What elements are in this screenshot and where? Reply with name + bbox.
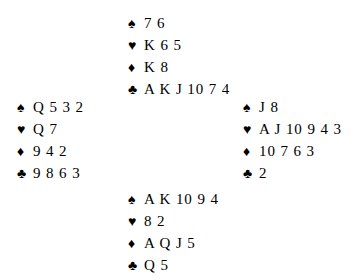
- south-hand: ♠A K 10 9 4 ♥8 2 ♦A Q J 5 ♣Q 5: [128, 188, 219, 276]
- spade-icon: ♠: [128, 13, 143, 35]
- east-clubs-cards: 2: [258, 162, 267, 184]
- heart-icon: ♥: [243, 119, 258, 141]
- spade-icon: ♠: [17, 97, 32, 119]
- heart-icon: ♥: [17, 119, 32, 141]
- heart-icon: ♥: [128, 35, 143, 57]
- north-diamonds-row: ♦K 8: [128, 56, 230, 78]
- spade-icon: ♠: [243, 97, 258, 119]
- east-spades-row: ♠J 8: [243, 96, 342, 118]
- north-clubs-cards: A K J 10 7 4: [143, 78, 230, 100]
- east-hand: ♠J 8 ♥A J 10 9 4 3 ♦10 7 6 3 ♣2: [243, 96, 342, 184]
- west-spades-cards: Q 5 3 2: [32, 96, 84, 118]
- north-hearts-row: ♥K 6 5: [128, 34, 230, 56]
- club-icon: ♣: [243, 163, 258, 185]
- west-clubs-cards: 9 8 6 3: [32, 162, 81, 184]
- heart-icon: ♥: [128, 211, 143, 233]
- north-spades-cards: 7 6: [143, 12, 165, 34]
- south-spades-cards: A K 10 9 4: [143, 188, 219, 210]
- west-clubs-row: ♣9 8 6 3: [17, 162, 84, 184]
- west-spades-row: ♠Q 5 3 2: [17, 96, 84, 118]
- north-hearts-cards: K 6 5: [143, 34, 182, 56]
- diamond-icon: ♦: [17, 141, 32, 163]
- east-hearts-cards: A J 10 9 4 3: [258, 118, 342, 140]
- bridge-deal-diagram: ♠7 6 ♥K 6 5 ♦K 8 ♣A K J 10 7 4 ♠Q 5 3 2 …: [0, 0, 358, 280]
- west-diamonds-row: ♦9 4 2: [17, 140, 84, 162]
- north-diamonds-cards: K 8: [143, 56, 169, 78]
- east-hearts-row: ♥A J 10 9 4 3: [243, 118, 342, 140]
- spade-icon: ♠: [128, 189, 143, 211]
- east-diamonds-cards: 10 7 6 3: [258, 140, 315, 162]
- south-hearts-cards: 8 2: [143, 210, 165, 232]
- south-clubs-cards: Q 5: [143, 254, 169, 276]
- south-hearts-row: ♥8 2: [128, 210, 219, 232]
- west-diamonds-cards: 9 4 2: [32, 140, 68, 162]
- south-diamonds-cards: A Q J 5: [143, 232, 196, 254]
- club-icon: ♣: [128, 79, 143, 101]
- east-diamonds-row: ♦10 7 6 3: [243, 140, 342, 162]
- east-clubs-row: ♣2: [243, 162, 342, 184]
- north-hand: ♠7 6 ♥K 6 5 ♦K 8 ♣A K J 10 7 4: [128, 12, 230, 100]
- south-clubs-row: ♣Q 5: [128, 254, 219, 276]
- club-icon: ♣: [128, 255, 143, 277]
- west-hearts-row: ♥Q 7: [17, 118, 84, 140]
- west-hand: ♠Q 5 3 2 ♥Q 7 ♦9 4 2 ♣9 8 6 3: [17, 96, 84, 184]
- club-icon: ♣: [17, 163, 32, 185]
- diamond-icon: ♦: [128, 57, 143, 79]
- east-spades-cards: J 8: [258, 96, 279, 118]
- diamond-icon: ♦: [128, 233, 143, 255]
- north-clubs-row: ♣A K J 10 7 4: [128, 78, 230, 100]
- south-spades-row: ♠A K 10 9 4: [128, 188, 219, 210]
- diamond-icon: ♦: [243, 141, 258, 163]
- west-hearts-cards: Q 7: [32, 118, 58, 140]
- south-diamonds-row: ♦A Q J 5: [128, 232, 219, 254]
- north-spades-row: ♠7 6: [128, 12, 230, 34]
